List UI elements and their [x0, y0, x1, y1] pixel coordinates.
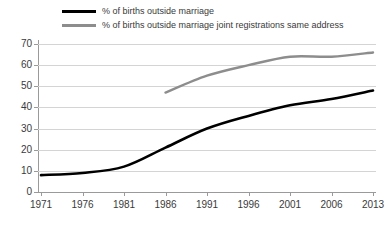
legend-label-series-1: % of births outside marriage joint regis…	[102, 20, 344, 31]
y-axis-label: 10	[0, 166, 32, 176]
x-tick-1981	[124, 192, 125, 196]
y-axis-label: 50	[0, 81, 32, 91]
x-axis-label: 1996	[227, 199, 271, 211]
y-axis-label: 0	[0, 187, 32, 197]
x-tick-1991	[207, 192, 208, 196]
x-tick-1971	[41, 192, 42, 196]
y-axis-label: 30	[0, 124, 32, 134]
legend-item-joint-registrations: % of births outside marriage joint regis…	[62, 18, 344, 32]
legend-label-series-0: % of births outside marriage	[102, 6, 214, 17]
x-tick-1986	[166, 192, 167, 196]
line-chart: % of births outside marriage % of births…	[0, 0, 388, 225]
x-axis-label: 2001	[268, 199, 312, 211]
legend-swatch-gray-line	[62, 24, 96, 27]
series-line-1	[166, 52, 374, 92]
legend-item-births-outside-marriage: % of births outside marriage	[62, 4, 344, 18]
y-axis-label: 40	[0, 102, 32, 112]
y-axis-label: 60	[0, 60, 32, 70]
y-tick-0	[34, 192, 38, 193]
x-tick-2006	[332, 192, 333, 196]
legend-swatch-black-line	[62, 10, 96, 13]
x-tick-2013	[373, 192, 374, 196]
x-axis-label: 1991	[185, 199, 229, 211]
series-line-0	[41, 91, 373, 176]
x-axis-label: 2013	[351, 199, 388, 211]
x-axis-label: 1976	[61, 199, 105, 211]
y-axis-label: 20	[0, 145, 32, 155]
chart-legend: % of births outside marriage % of births…	[62, 4, 344, 32]
x-tick-2001	[290, 192, 291, 196]
series-layer	[38, 44, 376, 192]
x-axis-label: 1971	[19, 199, 63, 211]
y-axis-label: 70	[0, 39, 32, 49]
x-tick-1976	[83, 192, 84, 196]
x-axis-label: 1981	[102, 199, 146, 211]
x-axis-label: 2006	[310, 199, 354, 211]
x-axis-label: 1986	[144, 199, 188, 211]
plot-wrapper: 010203040506070 197119761981198619911996…	[38, 44, 376, 192]
x-tick-1996	[249, 192, 250, 196]
